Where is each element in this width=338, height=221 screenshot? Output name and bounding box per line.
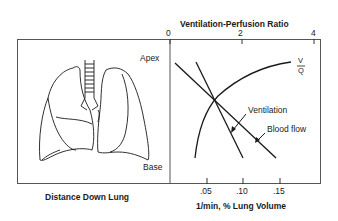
top-tick-label-4: 4 — [311, 28, 316, 38]
apex-label: Apex — [140, 53, 159, 63]
ventilation-line — [196, 62, 243, 158]
bottom-tick-label-05: .05 — [200, 186, 212, 196]
vq-label-q: Q — [298, 66, 304, 75]
top-axis-title: Ventilation-Perfusion Ratio — [180, 19, 289, 29]
vq-label-v: V — [298, 56, 303, 65]
bottom-axis-title: 1/min, % Lung Volume — [196, 201, 286, 211]
ventilation-label: Ventilation — [248, 105, 287, 115]
lungs-icon — [39, 60, 148, 160]
base-label: Base — [143, 162, 162, 172]
blood-flow-label: Blood flow — [267, 124, 306, 134]
left-panel-caption: Distance Down Lung — [45, 192, 129, 202]
top-tick-label-2: 2 — [238, 28, 243, 38]
bottom-tick-label-10: .10 — [236, 186, 248, 196]
bottom-tick-label-15: .15 — [273, 186, 285, 196]
top-tick-label-0: 0 — [166, 28, 171, 38]
